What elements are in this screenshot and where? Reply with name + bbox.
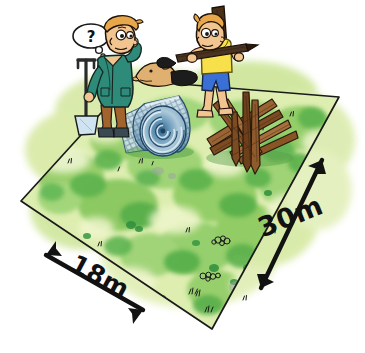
thought-bubble-text: ? <box>87 28 96 46</box>
garden-plot-illustration: ? <box>0 0 365 353</box>
